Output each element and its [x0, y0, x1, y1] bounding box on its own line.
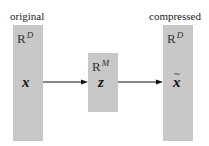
arrow-latent-to-compressed: [118, 80, 163, 85]
arrows-layer: [0, 0, 209, 146]
arrow-original-to-latent: [43, 80, 88, 85]
